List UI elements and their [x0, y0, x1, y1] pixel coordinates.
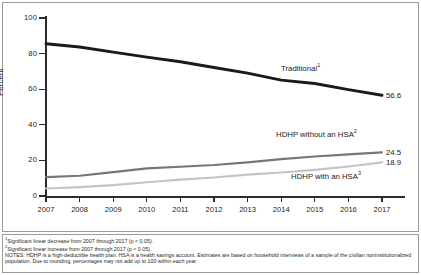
- series-lines: [0, 0, 421, 232]
- series-label-traditional-text: Traditional: [281, 64, 317, 73]
- figure-container: Percent 100806040200 2007200820092010201…: [0, 0, 421, 275]
- series-label-traditional-superscript: 1: [317, 62, 320, 68]
- notes-text: NOTES: HDHP is a high-deductible health …: [5, 252, 416, 264]
- series-label-hdhp-with-hsa-superscript: 3: [358, 170, 361, 176]
- series-line-traditional: [46, 44, 382, 95]
- end-value-hdhp-with-hsa: 18.9: [386, 158, 401, 167]
- footnote-1: 1Significant linear decrease from 2007 t…: [5, 236, 416, 244]
- series-label-hdhp-without-hsa-superscript: 2: [354, 128, 357, 134]
- footnote-2: 2Significant linear increase from 2007 t…: [5, 244, 416, 252]
- series-label-hdhp-without-hsa-text: HDHP without an HSA: [276, 130, 354, 139]
- footnote-2-text: Significant linear increase from 2007 th…: [7, 246, 151, 252]
- series-label-hdhp-without-hsa: HDHP without an HSA2: [276, 128, 357, 139]
- series-label-hdhp-with-hsa: HDHP with an HSA3: [291, 170, 361, 181]
- series-label-hdhp-with-hsa-text: HDHP with an HSA: [291, 172, 358, 181]
- series-label-traditional: Traditional1: [281, 62, 320, 73]
- end-value-traditional: 56.6: [386, 91, 401, 100]
- end-value-hdhp-without-hsa: 24.5: [386, 148, 401, 157]
- footnotes-block: 1Significant linear decrease from 2007 t…: [5, 236, 416, 264]
- footnote-1-text: Significant linear decrease from 2007 th…: [7, 238, 153, 244]
